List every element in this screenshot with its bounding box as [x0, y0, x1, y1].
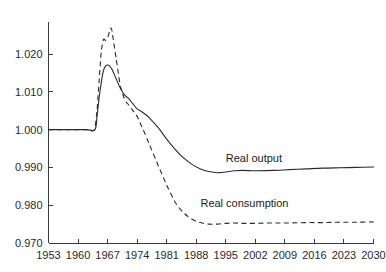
y-tick-label: 0.980 [15, 199, 43, 211]
y-tick-label: 1.020 [15, 48, 43, 60]
series-line-real-consumption [49, 28, 374, 224]
x-tick-label: 1995 [214, 249, 238, 261]
axis-layer [49, 22, 374, 243]
y-tick-label: 0.970 [15, 237, 43, 249]
x-tick-label: 2023 [332, 249, 356, 261]
x-tick-label: 1988 [184, 249, 208, 261]
x-tick-label: 2002 [243, 249, 267, 261]
line-chart: 0.9700.9800.9901.0001.0101.020 195319601… [0, 0, 386, 272]
series-label-real-consumption: Real consumption [200, 197, 288, 209]
x-tick-label: 1960 [66, 249, 90, 261]
x-tick-label: 1974 [125, 249, 149, 261]
y-axis-ticks: 0.9700.9800.9901.0001.0101.020 [15, 48, 53, 249]
x-tick-label: 1953 [36, 249, 60, 261]
x-axis-ticks: 1953196019671974198119881995200220092016… [36, 239, 385, 261]
x-tick-label: 2009 [273, 249, 297, 261]
x-tick-label: 1981 [154, 249, 178, 261]
y-tick-label: 0.990 [15, 161, 43, 173]
series-annotations: Real outputReal consumption [200, 152, 288, 209]
y-tick-label: 1.010 [15, 86, 43, 98]
chart-container: 0.9700.9800.9901.0001.0101.020 195319601… [0, 0, 386, 272]
series-label-real-output: Real output [226, 152, 282, 164]
x-tick-label: 2030 [361, 249, 385, 261]
y-tick-label: 1.000 [15, 124, 43, 136]
series-line-real-output [49, 65, 374, 173]
data-series-layer [49, 28, 374, 224]
x-tick-label: 1967 [95, 249, 119, 261]
x-tick-label: 2016 [302, 249, 326, 261]
